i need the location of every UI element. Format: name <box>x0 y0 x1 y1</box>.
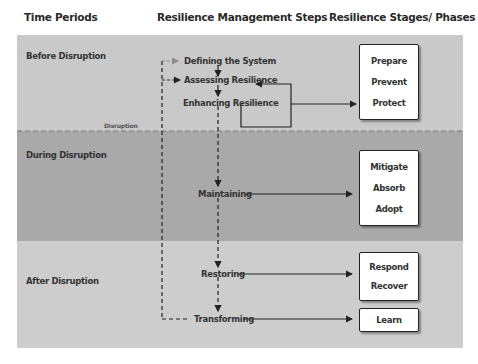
phase-box-after-restore: Respond Recover <box>359 252 419 301</box>
step-enhancing: Enhancing Resilience <box>183 98 278 108</box>
phase-recover: Recover <box>371 281 408 291</box>
phase-learn: Learn <box>376 315 402 325</box>
phase-respond: Respond <box>369 262 408 272</box>
phase-box-after-transform: Learn <box>359 308 419 332</box>
step-restoring: Restoring <box>201 269 245 279</box>
step-assessing: Assessing Resilience <box>184 75 277 85</box>
phase-prepare: Prepare <box>371 56 407 66</box>
phase-box-during: Mitigate Absorb Adopt <box>359 150 419 226</box>
step-transforming: Transforming <box>194 314 254 324</box>
phase-adopt: Adopt <box>375 204 402 214</box>
step-defining: Defining the System <box>184 56 276 66</box>
phase-absorb: Absorb <box>373 183 405 193</box>
step-maintaining: Maintaining <box>198 189 252 199</box>
phase-mitigate: Mitigate <box>370 162 408 172</box>
phase-prevent: Prevent <box>371 77 407 87</box>
phase-box-before: Prepare Prevent Protect <box>359 44 419 120</box>
phase-protect: Protect <box>372 98 405 108</box>
disruption-label: Disruption <box>104 122 137 129</box>
